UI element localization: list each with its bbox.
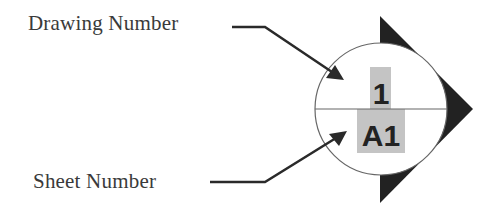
sheet-number-label: Sheet Number	[33, 171, 156, 192]
sheet-number-leader	[210, 138, 336, 182]
drawing-number-leader	[232, 27, 332, 72]
section-marker-diagram: 1 A1 Drawing Number Sheet Number	[0, 0, 502, 218]
drawing-number-label: Drawing Number	[28, 13, 178, 34]
sheet-number-value: A1	[362, 119, 400, 152]
drawing-number-value: 1	[373, 77, 390, 110]
